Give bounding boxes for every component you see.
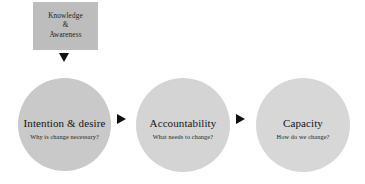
stage-text-intention: Intention & desire Why is change necessa… bbox=[24, 117, 106, 141]
arrow-down-icon bbox=[59, 53, 69, 62]
change-model-diagram: Knowledge & Awareness Intention & desire… bbox=[0, 0, 365, 184]
knowledge-awareness-line-2: & bbox=[63, 21, 69, 31]
arrow-right-icon-1 bbox=[117, 114, 126, 124]
stage-circle-capacity: Capacity How do we change? bbox=[256, 78, 350, 172]
arrow-right-icon-2 bbox=[236, 114, 245, 124]
stage-title-intention: Intention & desire bbox=[24, 117, 106, 130]
stage-circle-accountability: Accountability What needs to change? bbox=[136, 78, 230, 172]
stage-text-capacity: Capacity How do we change? bbox=[277, 117, 330, 141]
knowledge-awareness-line-3: Awareness bbox=[49, 31, 81, 41]
stage-text-accountability: Accountability What needs to change? bbox=[150, 117, 217, 141]
stage-circle-intention: Intention & desire Why is change necessa… bbox=[18, 78, 111, 171]
knowledge-awareness-line-1: Knowledge bbox=[48, 12, 82, 22]
stage-question-capacity: How do we change? bbox=[277, 133, 330, 141]
knowledge-awareness-box: Knowledge & Awareness bbox=[33, 2, 98, 50]
stage-question-intention: Why is change necessary? bbox=[30, 133, 99, 141]
stage-title-accountability: Accountability bbox=[150, 117, 217, 130]
stage-title-capacity: Capacity bbox=[283, 117, 323, 130]
stage-question-accountability: What needs to change? bbox=[153, 133, 213, 141]
